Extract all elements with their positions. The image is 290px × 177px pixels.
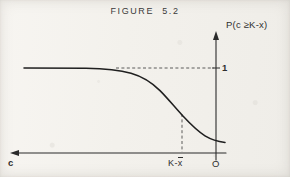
x-marker-var-with-overbar: x: [178, 158, 183, 168]
x-axis: [10, 150, 226, 156]
x-axis-arrowhead: [10, 150, 19, 156]
y-tick-label-one: 1: [222, 62, 227, 73]
y-axis-label: P(c ≥K-x): [226, 19, 267, 30]
figure-container: FIGURE 5.2 P(c ≥K-x) 1 c K-x O: [0, 0, 290, 177]
origin-label: O: [212, 158, 220, 169]
x-marker-label-k-minus-xbar: K-x: [168, 158, 183, 168]
overbar-icon: [178, 157, 183, 158]
probability-curve: [24, 68, 225, 142]
y-axis-arrowhead: [213, 31, 219, 40]
x-marker-prefix: K-: [168, 158, 178, 168]
x-marker-var: x: [178, 158, 183, 168]
x-axis-label-c: c: [8, 157, 13, 168]
